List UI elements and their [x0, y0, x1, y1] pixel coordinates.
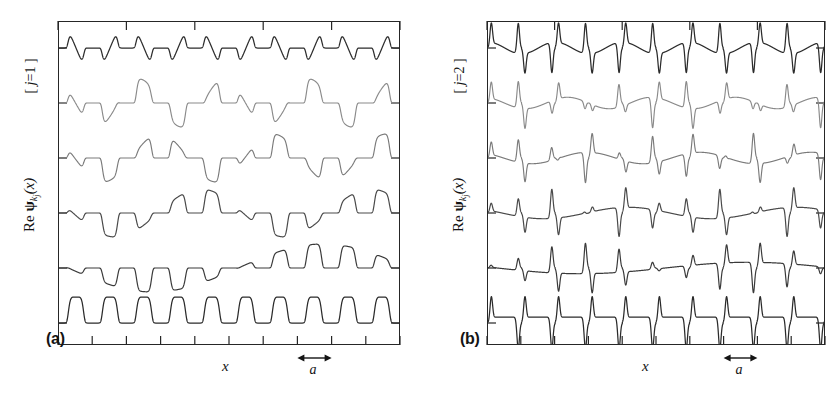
scale-bar-arrowhead-right [325, 354, 332, 361]
wavefunction-trace-3 [488, 188, 824, 237]
scale-bar-arrowhead-right [750, 354, 757, 361]
panel-b-tick-marks [487, 21, 825, 345]
panel-a-scale-bar-arrow [0, 348, 420, 382]
panel-b-caption: (b) [460, 330, 480, 348]
panel-b-curves [488, 23, 824, 349]
scale-bar-arrowhead-left [297, 354, 304, 361]
panel-b-scale-bar-arrow [420, 348, 840, 382]
wavefunction-trace-1 [488, 82, 824, 129]
panel-b: [ j=2 ] Re ψkj(x) (b) x a [420, 0, 840, 395]
wavefunction-trace-0 [59, 37, 399, 60]
wavefunction-trace-1 [59, 79, 399, 127]
scale-bar-arrowhead-left [724, 354, 731, 361]
wavefunction-trace-0 [488, 23, 824, 73]
wavefunction-trace-2 [59, 134, 399, 182]
wavefunction-trace-5 [59, 297, 399, 323]
panel-b-scale-bar-label: a [736, 362, 743, 378]
panel-a-scale-bar-label: a [310, 362, 317, 378]
panel-a: [ j=1 ] Re ψkj(x) (a) x a [0, 0, 420, 395]
wavefunction-trace-4 [59, 244, 399, 292]
wavefunction-trace-3 [59, 190, 399, 237]
panel-b-plot-area [420, 0, 840, 395]
panel-a-curves [59, 37, 399, 323]
figure-root: [ j=1 ] Re ψkj(x) (a) x a [ j=2 ] Re ψkj… [0, 0, 840, 395]
wavefunction-trace-4 [488, 243, 824, 293]
panel-a-caption: (a) [46, 330, 65, 348]
wavefunction-trace-2 [488, 133, 824, 182]
